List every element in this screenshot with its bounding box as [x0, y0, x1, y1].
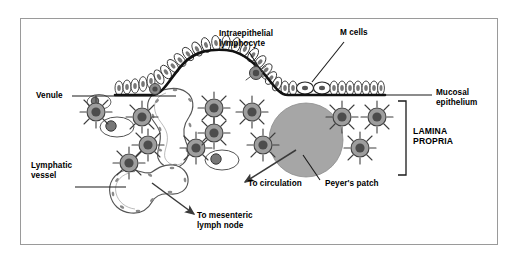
epithelial-cell-row-left — [115, 73, 155, 95]
intraepithelial-lymphocyte — [150, 84, 161, 95]
label-mucosal-epithelium: Mucosal epithelium — [436, 88, 477, 107]
epithelial-cell-row-right — [281, 81, 384, 95]
venule-vessel — [148, 88, 193, 167]
plasma-cell — [205, 150, 239, 170]
dendritic-cell — [126, 101, 158, 133]
dendritic-cell — [113, 147, 145, 179]
label-lymphatic-vessel: Lymphatic vessel — [31, 161, 72, 180]
lymphatic-vessel — [110, 165, 188, 213]
dendritic-cell — [326, 101, 358, 133]
dendritic-cell — [344, 132, 376, 164]
m-cell — [314, 82, 331, 94]
dendritic-cell — [198, 117, 230, 149]
label-m-cells: M cells — [340, 28, 368, 38]
lamina-propria-cells — [80, 88, 393, 213]
label-to-circulation: To circulation — [248, 179, 302, 189]
leader-m-cells — [312, 42, 344, 82]
label-peyers-patch: Peyer's patch — [325, 179, 379, 189]
dendritic-cell — [247, 129, 279, 161]
plasma-cell — [100, 117, 134, 137]
label-intraepithelial-lymphocyte: Intraepithelial lymphocyte — [219, 29, 273, 48]
m-cell — [297, 82, 314, 94]
peyers-patch-follicle — [269, 103, 343, 177]
mucosal-immunity-figure: Intraepithelial lymphocyte M cells Mucos… — [0, 0, 520, 263]
dendritic-cell — [132, 129, 164, 161]
dendritic-cell — [80, 96, 112, 128]
label-to-mesenteric-lymph-node: To mesenteric lymph node — [197, 211, 253, 230]
dendritic-cell — [361, 101, 393, 133]
dendritic-cell — [236, 96, 268, 128]
lamina-propria-bracket — [398, 101, 406, 175]
label-venule: Venule — [36, 91, 63, 101]
label-lamina-propria: LAMINA PROPRIA — [413, 126, 453, 147]
